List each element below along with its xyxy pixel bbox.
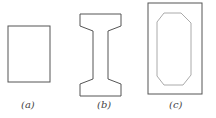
panel-b-label: (b) [97,99,111,110]
panel-c-outer-box [148,3,202,94]
panel-a-label: (a) [21,99,35,110]
panel-b-i-beam [80,14,121,96]
panel-c-label: (c) [169,99,182,110]
panel-c-octagonal-void [157,13,191,85]
panel-a-rectangle [8,26,50,82]
